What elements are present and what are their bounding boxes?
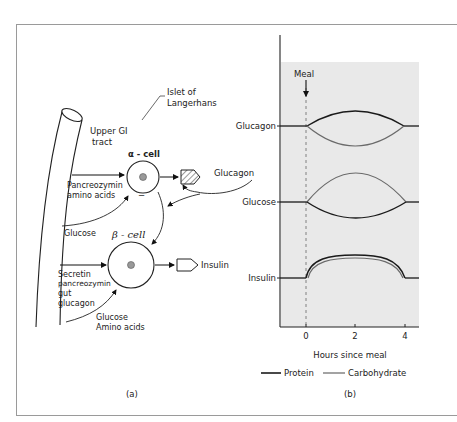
gi-tract-label-2: tract [92, 137, 113, 147]
amino-acids-label: amino acids [67, 191, 115, 200]
alpha-cell-label: α - cell [128, 149, 160, 159]
gi-tract-label-1: Upper GI [90, 126, 128, 136]
x-tick-2: 2 [352, 331, 357, 341]
row-label-glucagon: Glucagon [236, 121, 276, 131]
legend-carbohydrate-label: Carbohydrate [348, 368, 406, 378]
panel-b-chart: Meal Glucagon Glucose Insulin 0 [236, 35, 419, 399]
glucagon-output-label: Glucagon [214, 168, 254, 178]
glucagon-beta-label: glucagon [58, 299, 95, 308]
row-label-glucose: Glucose [242, 197, 276, 207]
beta-cell-label: β - cell [111, 229, 145, 240]
meal-label: Meal [294, 69, 314, 79]
legend-protein-label: Protein [284, 368, 314, 378]
gut-label: gut [58, 289, 71, 298]
panel-a-caption: (a) [126, 389, 138, 399]
row-label-insulin: Insulin [248, 273, 276, 283]
islet-label-1: Islet of [167, 87, 197, 97]
insulin-shape [177, 259, 198, 271]
islet-label-2: Langerhans [167, 98, 217, 108]
glucose-to-alpha-arrow [62, 196, 128, 226]
amino-beta-label: Amino acids [96, 323, 145, 332]
beta-cell-nucleus [128, 262, 135, 269]
glucose-alpha-label: Glucose [64, 229, 96, 238]
glucagon-hatched-shape [181, 170, 200, 184]
glucose-beta-label: Glucose [96, 313, 128, 322]
x-axis-label: Hours since meal [313, 350, 386, 360]
pancreozymin-label: Pancreozymin [67, 181, 123, 190]
alpha-cell-nucleus [140, 174, 147, 181]
alpha-to-beta-arrow [152, 192, 163, 244]
pancreozymin-beta-label: pancreozymin [58, 279, 111, 288]
x-tick-0: 0 [303, 331, 308, 341]
islet-leader-line [142, 96, 160, 120]
minus-sign: − [138, 190, 145, 200]
secretin-label: Secretin [58, 270, 91, 279]
panel-a-diagram: Islet of Langerhans Upper GI tract α - c… [36, 87, 254, 399]
legend: Protein Carbohydrate [261, 368, 406, 378]
insulin-output-label: Insulin [201, 260, 229, 270]
x-tick-4: 4 [402, 331, 407, 341]
panel-b-caption: (b) [344, 389, 356, 399]
